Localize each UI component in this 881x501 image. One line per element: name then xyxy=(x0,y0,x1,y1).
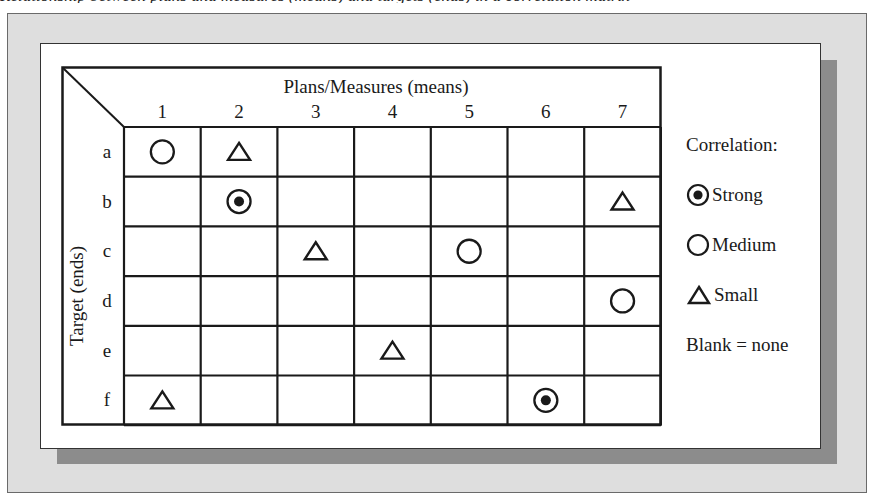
grid-lines xyxy=(124,127,661,425)
row-header: Target (ends) xyxy=(66,246,88,346)
legend-item-strong: Strong xyxy=(686,184,826,206)
circle-icon xyxy=(686,233,710,257)
legend-label-small: Small xyxy=(714,284,758,306)
matrix-grid: Plans/Measures (means) Target (ends) 123… xyxy=(61,66,665,430)
triangle-icon xyxy=(228,143,250,160)
column-label: 1 xyxy=(158,101,168,122)
triangle-icon xyxy=(151,391,173,408)
row-label: f xyxy=(104,389,111,410)
legend-item-small: Small xyxy=(686,284,826,306)
column-label: 4 xyxy=(388,101,398,122)
column-label: 7 xyxy=(618,101,628,122)
row-label: b xyxy=(102,191,112,212)
triangle-icon xyxy=(686,284,712,306)
correlation-legend: Correlation: Strong Medium Small Blank =… xyxy=(686,134,826,356)
triangle-icon xyxy=(612,193,634,210)
triangle-icon xyxy=(381,342,403,359)
row-label: a xyxy=(103,141,112,162)
column-label: 2 xyxy=(234,101,244,122)
column-labels: 1234567 xyxy=(158,101,628,122)
column-label: 5 xyxy=(464,101,474,122)
column-label: 3 xyxy=(311,101,321,122)
row-label: e xyxy=(103,340,111,361)
legend-label-medium: Medium xyxy=(712,234,776,256)
row-labels: abcdef xyxy=(102,141,112,411)
bullseye-icon xyxy=(686,183,710,207)
correlation-matrix: Plans/Measures (means) Target (ends) 123… xyxy=(61,66,665,430)
row-label: c xyxy=(103,240,111,261)
bullseye-icon xyxy=(534,389,557,412)
legend-item-medium: Medium xyxy=(686,234,826,256)
column-label: 6 xyxy=(541,101,551,122)
legend-note: Blank = none xyxy=(686,334,826,356)
caption-fragment: Relationship between plans and measures … xyxy=(0,0,881,3)
matrix-border xyxy=(63,68,661,425)
legend-title: Correlation: xyxy=(686,134,826,156)
row-label: d xyxy=(102,290,112,311)
circle-icon xyxy=(458,240,481,263)
circle-icon xyxy=(151,140,174,163)
triangle-icon xyxy=(305,242,327,259)
corner-diagonal xyxy=(63,68,125,128)
legend-label-strong: Strong xyxy=(712,184,763,206)
circle-icon xyxy=(611,289,634,312)
bullseye-icon xyxy=(228,190,251,213)
column-header: Plans/Measures (means) xyxy=(283,76,468,98)
